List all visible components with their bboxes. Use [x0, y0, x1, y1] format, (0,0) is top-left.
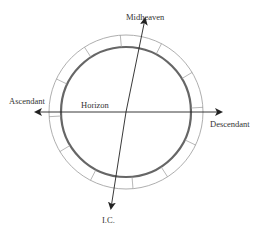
chart-diagram: Midheaven Ascendant Horizon Descendant I…	[0, 0, 255, 229]
midheaven-label: Midheaven	[126, 12, 165, 22]
descendant-label: Descendant	[210, 119, 250, 129]
ascendant-label: Ascendant	[9, 96, 46, 106]
meridian-axis	[126, 19, 145, 112]
ic-label: I.C.	[102, 215, 115, 225]
horizon-label: Horizon	[81, 100, 110, 110]
